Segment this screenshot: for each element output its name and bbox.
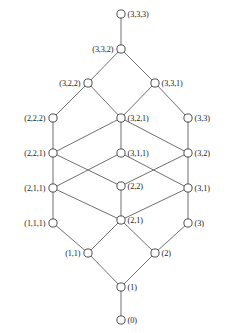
lattice-node — [49, 149, 57, 157]
lattice-edge — [57, 190, 118, 219]
hasse-diagram: (3,3,3)(3,3,2)(3,2,2)(3,3,1)(2,2,2)(3,2,… — [0, 0, 232, 333]
node-label: (3,3,1) — [162, 79, 183, 88]
lattice-edge — [124, 256, 152, 284]
lattice-edge — [158, 86, 185, 115]
lattice-node — [184, 149, 192, 157]
lattice-node — [49, 114, 57, 122]
lattice-node — [117, 10, 125, 18]
node-label: (2,1) — [128, 216, 143, 225]
lattice-edge — [125, 120, 185, 151]
node-label: (2) — [162, 249, 171, 258]
node-label: (2,2,1) — [24, 149, 45, 158]
lattice-node — [117, 45, 125, 53]
node-layer — [49, 10, 192, 324]
node-label: (3,3,2) — [92, 45, 113, 54]
node-label: (2,2,2) — [24, 114, 45, 123]
lattice-node — [151, 79, 159, 87]
node-label: (3,1,1) — [128, 149, 149, 158]
lattice-node — [117, 149, 125, 157]
diagram-canvas — [0, 0, 232, 333]
lattice-edge — [57, 120, 118, 151]
lattice-node — [117, 216, 125, 224]
lattice-node — [117, 283, 125, 291]
lattice-edge — [91, 52, 118, 80]
lattice-node — [151, 249, 159, 257]
lattice-node — [84, 249, 92, 257]
node-label: (3,3) — [195, 114, 210, 123]
node-label: (3,2) — [195, 149, 210, 158]
lattice-edge — [124, 52, 152, 80]
lattice-node — [117, 114, 125, 122]
lattice-node — [117, 182, 125, 190]
lattice-node — [184, 114, 192, 122]
node-label: (3,2,1) — [128, 114, 149, 123]
lattice-edge — [124, 223, 152, 250]
node-label: (3) — [195, 219, 204, 228]
lattice-node — [184, 184, 192, 192]
lattice-edge — [125, 190, 185, 218]
lattice-node — [184, 219, 192, 227]
lattice-edge — [124, 86, 152, 115]
node-label: (3,2,2) — [59, 79, 80, 88]
lattice-edge — [91, 256, 118, 284]
node-label: (1,1) — [65, 249, 80, 258]
node-label: (0) — [128, 316, 137, 325]
lattice-edge — [56, 86, 85, 115]
lattice-node — [84, 79, 92, 87]
node-label: (3,3,3) — [128, 10, 149, 19]
lattice-node — [49, 184, 57, 192]
node-label: (1,1,1) — [24, 219, 45, 228]
lattice-edge — [91, 86, 118, 115]
lattice-edge — [158, 226, 185, 250]
node-label: (3,1) — [195, 184, 210, 193]
lattice-node — [49, 219, 57, 227]
lattice-node — [117, 316, 125, 324]
node-label: (1) — [128, 283, 137, 292]
lattice-edge — [91, 223, 118, 250]
node-label: (2,1,1) — [24, 184, 45, 193]
node-label: (2,2) — [128, 182, 143, 191]
lattice-edge — [56, 226, 85, 251]
edge-layer — [53, 18, 188, 316]
